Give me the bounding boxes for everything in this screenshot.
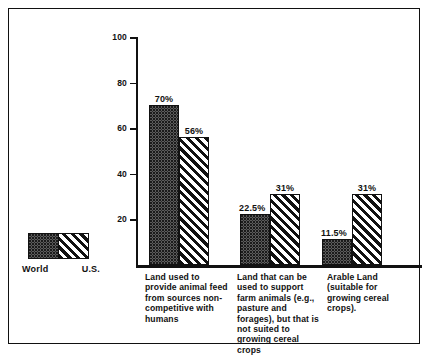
- category-caption-1: Land that can be used to support farm an…: [237, 272, 321, 355]
- bar-world-2[interactable]: 11.5%: [322, 239, 352, 265]
- y-tick-label-60: 60: [117, 123, 127, 133]
- bar-value-us-2: 31%: [358, 183, 377, 193]
- x-axis-line: [136, 265, 422, 268]
- legend-label-world: World: [22, 264, 48, 274]
- legend-swatches: [28, 233, 89, 259]
- plot-area: 100 80 60 40 20 70% 56% 22.5% 31: [136, 37, 404, 265]
- category-caption-2: Arable Land (suitable for growing cereal…: [327, 272, 409, 314]
- y-tick-label-80: 80: [117, 78, 127, 88]
- bar-world-0[interactable]: 70%: [149, 105, 179, 265]
- bar-value-world-0: 70%: [155, 94, 174, 104]
- bar-value-world-2: 11.5%: [321, 228, 347, 238]
- y-tick-label-20: 20: [117, 214, 127, 224]
- category-caption-0: Land used to provide animal feed from so…: [145, 272, 231, 324]
- legend: World U.S.: [28, 233, 100, 274]
- bar-us-2[interactable]: 31%: [352, 194, 382, 265]
- legend-swatch-world: [29, 234, 58, 258]
- chart-frame: 100 80 60 40 20 70% 56% 22.5% 31: [8, 8, 420, 344]
- legend-label-us: U.S.: [82, 264, 100, 274]
- legend-swatch-us: [58, 234, 88, 258]
- y-axis-line: [136, 37, 138, 265]
- bar-world-1[interactable]: 22.5%: [240, 214, 270, 265]
- bar-value-us-0: 56%: [185, 126, 204, 136]
- bar-us-0[interactable]: 56%: [179, 137, 209, 265]
- bar-value-world-1: 22.5%: [239, 203, 266, 213]
- bar-value-us-1: 31%: [276, 183, 295, 193]
- bar-us-1[interactable]: 31%: [270, 194, 300, 265]
- y-tick-label-100: 100: [112, 32, 127, 42]
- y-tick-label-40: 40: [117, 169, 127, 179]
- legend-labels: World U.S.: [22, 264, 100, 274]
